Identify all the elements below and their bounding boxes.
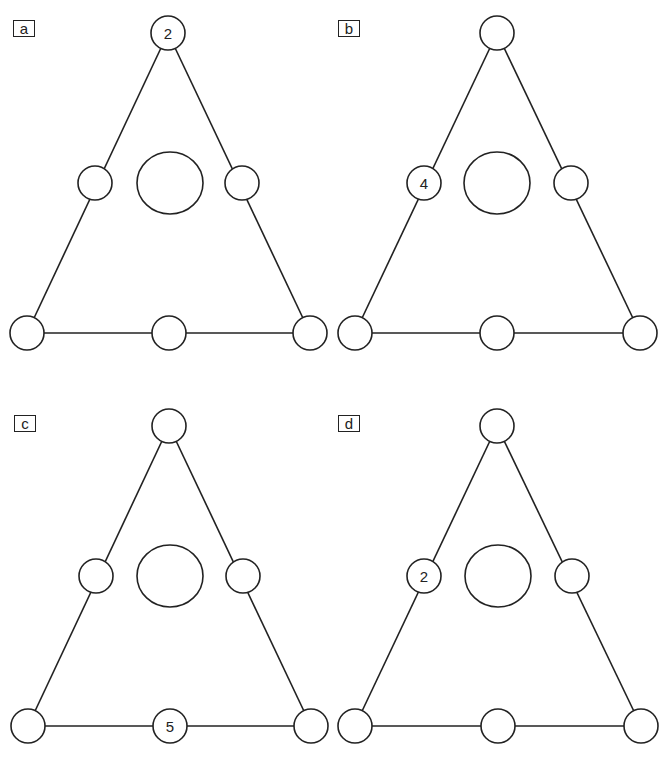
node-bottom-right[interactable] xyxy=(624,709,658,743)
panel-d: d 2 xyxy=(335,395,670,761)
node-mid-right[interactable] xyxy=(226,559,260,593)
node-bottom-left[interactable] xyxy=(338,709,372,743)
svg-text:2: 2 xyxy=(420,568,428,585)
center-node[interactable] xyxy=(464,152,530,214)
node-mid-right[interactable] xyxy=(225,166,259,200)
panel-c: c 5 xyxy=(0,395,335,761)
node-bottom-mid[interactable] xyxy=(152,316,186,350)
triangle-diagram: 2 xyxy=(0,0,340,360)
node-bottom-right[interactable] xyxy=(294,709,328,743)
panel-a: a 2 xyxy=(0,0,335,380)
center-node[interactable] xyxy=(137,545,203,607)
node-bottom-mid[interactable]: 5 xyxy=(153,709,187,743)
node-mid-left[interactable] xyxy=(78,166,112,200)
svg-text:5: 5 xyxy=(166,718,174,735)
node-bottom-left[interactable] xyxy=(11,709,45,743)
node-top[interactable] xyxy=(480,16,514,50)
node-mid-left[interactable]: 4 xyxy=(407,166,441,200)
node-bottom-mid[interactable] xyxy=(480,316,514,350)
node-mid-left[interactable] xyxy=(79,559,113,593)
node-bottom-right[interactable] xyxy=(293,316,327,350)
node-mid-right[interactable] xyxy=(554,166,588,200)
node-top[interactable]: 2 xyxy=(151,16,185,50)
node-top[interactable] xyxy=(480,409,514,443)
svg-text:4: 4 xyxy=(420,175,428,192)
node-bottom-right[interactable] xyxy=(623,316,657,350)
triangle-diagram: 4 xyxy=(335,0,671,360)
node-bottom-left[interactable] xyxy=(338,316,372,350)
node-top[interactable] xyxy=(152,409,186,443)
center-node[interactable] xyxy=(465,545,531,607)
center-node[interactable] xyxy=(137,152,203,214)
triangle-diagram: 2 xyxy=(335,395,671,761)
node-mid-left[interactable]: 2 xyxy=(407,559,441,593)
panel-b: b 4 xyxy=(335,0,670,380)
node-bottom-mid[interactable] xyxy=(481,709,515,743)
node-bottom-left[interactable] xyxy=(10,316,44,350)
node-mid-right[interactable] xyxy=(555,559,589,593)
svg-text:2: 2 xyxy=(164,25,172,42)
triangle-diagram: 5 xyxy=(0,395,340,761)
